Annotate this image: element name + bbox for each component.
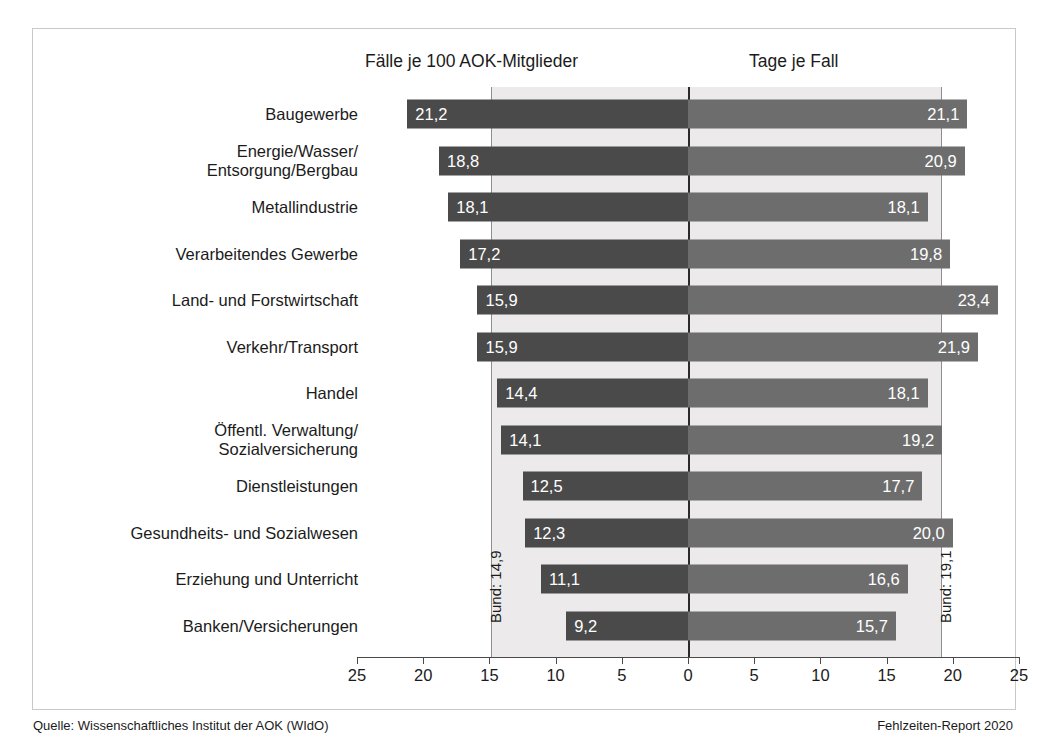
bar-value-right: 15,7 (856, 616, 888, 635)
category-label: Land- und Forstwirtschaft (172, 291, 358, 310)
bar-left: 21,2 (407, 100, 688, 129)
axis-tick-label: 25 (1010, 666, 1028, 685)
bar-right: 18,1 (688, 379, 928, 408)
chart-row: Land- und Forstwirtschaft15,923,4 (33, 277, 1017, 324)
bar-right: 19,8 (688, 239, 950, 268)
bar-value-left: 18,1 (456, 198, 488, 217)
bar-value-right: 20,9 (925, 151, 957, 170)
axis-tick-label: 25 (348, 666, 366, 685)
footer-source: Quelle: Wissenschaftliches Institut der … (33, 718, 329, 733)
chart-row: Handel14,418,1 (33, 370, 1017, 417)
bar-right: 20,0 (688, 518, 953, 547)
column-heading-right: Tage je Fall (749, 51, 839, 72)
axis-tick (688, 657, 689, 664)
axis-tick-label: 10 (546, 666, 564, 685)
column-heading-left: Fälle je 100 AOK-Mitglieder (365, 51, 578, 72)
bar-right: 20,9 (688, 146, 965, 175)
chart-row: Dienstleistungen12,517,7 (33, 463, 1017, 510)
bar-value-left: 9,2 (574, 616, 597, 635)
bar-value-right: 21,1 (927, 105, 959, 124)
axis-tick (820, 657, 821, 664)
bar-right: 17,7 (688, 472, 922, 501)
chart-figure: Fälle je 100 AOK-Mitglieder Tage je Fall… (32, 28, 1016, 710)
axis-tick-label: 20 (414, 666, 432, 685)
x-axis: 2520151050510152025 (33, 657, 1017, 697)
bar-left: 17,2 (460, 239, 688, 268)
axis-tick-label: 20 (944, 666, 962, 685)
bar-value-right: 21,9 (938, 337, 970, 356)
bar-left: 15,9 (477, 286, 688, 315)
category-label: Dienstleistungen (236, 477, 358, 496)
bar-left: 12,5 (523, 472, 689, 501)
bar-value-left: 14,1 (509, 430, 541, 449)
bar-value-right: 18,1 (888, 198, 920, 217)
bar-value-left: 14,4 (505, 384, 537, 403)
category-label: Öffentl. Verwaltung/ Sozialversicherung (214, 421, 358, 459)
bar-value-left: 18,8 (447, 151, 479, 170)
chart-row: Baugewerbe21,221,1 (33, 91, 1017, 138)
bar-right: 15,7 (688, 611, 896, 640)
bar-right: 21,9 (688, 332, 978, 361)
bar-value-right: 23,4 (958, 291, 990, 310)
chart-row: Gesundheits- und Sozialwesen12,320,0 (33, 510, 1017, 557)
category-label: Metallindustrie (252, 198, 358, 217)
bar-value-left: 21,2 (415, 105, 447, 124)
bar-right: 21,1 (688, 100, 967, 129)
category-label: Baugewerbe (265, 105, 358, 124)
axis-tick (953, 657, 954, 664)
bar-left: 14,1 (501, 425, 688, 454)
axis-tick-label: 15 (877, 666, 895, 685)
category-label: Erziehung und Unterricht (175, 570, 358, 589)
bar-value-right: 19,8 (910, 244, 942, 263)
bar-value-right: 20,0 (913, 523, 945, 542)
axis-tick-label: 5 (617, 666, 626, 685)
axis-tick (489, 657, 490, 664)
bar-left: 14,4 (497, 379, 688, 408)
bar-left: 9,2 (566, 611, 688, 640)
bar-right: 18,1 (688, 193, 928, 222)
bar-value-left: 12,5 (531, 477, 563, 496)
bar-value-left: 11,1 (549, 570, 580, 589)
category-label: Verkehr/Transport (227, 337, 358, 356)
category-label: Gesundheits- und Sozialwesen (131, 523, 358, 542)
category-label: Verarbeitendes Gewerbe (175, 244, 358, 263)
category-label: Energie/Wasser/ Entsorgung/Bergbau (207, 142, 358, 180)
axis-tick (887, 657, 888, 664)
bar-value-right: 16,6 (868, 570, 900, 589)
axis-tick (357, 657, 358, 664)
axis-tick (556, 657, 557, 664)
bar-left: 18,1 (448, 193, 688, 222)
bar-value-right: 18,1 (888, 384, 920, 403)
axis-tick (622, 657, 623, 664)
bar-right: 19,2 (688, 425, 942, 454)
chart-row: Banken/Versicherungen9,215,7 (33, 603, 1017, 650)
bar-left: 12,3 (525, 518, 688, 547)
bar-right: 16,6 (688, 565, 908, 594)
bar-value-right: 19,2 (902, 430, 934, 449)
bar-value-left: 15,9 (485, 337, 517, 356)
plot-area: Bund: 14,9 Bund: 19,1 Baugewerbe21,221,1… (33, 87, 1017, 657)
axis-tick-label: 5 (750, 666, 759, 685)
chart-row: Verkehr/Transport15,921,9 (33, 324, 1017, 371)
chart-row: Verarbeitendes Gewerbe17,219,8 (33, 231, 1017, 278)
category-label: Handel (306, 384, 358, 403)
axis-tick-label: 15 (480, 666, 498, 685)
category-label: Banken/Versicherungen (183, 616, 358, 635)
chart-row: Metallindustrie18,118,1 (33, 184, 1017, 231)
bar-right: 23,4 (688, 286, 998, 315)
bar-value-left: 15,9 (485, 291, 517, 310)
bar-value-left: 17,2 (468, 244, 500, 263)
axis-tick (1019, 657, 1020, 664)
axis-tick-label: 10 (811, 666, 829, 685)
axis-tick (423, 657, 424, 664)
axis-tick-label: 0 (683, 666, 692, 685)
footer-report: Fehlzeiten-Report 2020 (877, 718, 1013, 733)
bar-value-left: 12,3 (533, 523, 565, 542)
bar-value-right: 17,7 (882, 477, 914, 496)
axis-tick (754, 657, 755, 664)
chart-row: Öffentl. Verwaltung/ Sozialversicherung1… (33, 417, 1017, 464)
chart-row: Erziehung und Unterricht11,116,6 (33, 556, 1017, 603)
bar-left: 11,1 (541, 565, 688, 594)
bar-left: 18,8 (439, 146, 688, 175)
chart-row: Energie/Wasser/ Entsorgung/Bergbau18,820… (33, 138, 1017, 185)
